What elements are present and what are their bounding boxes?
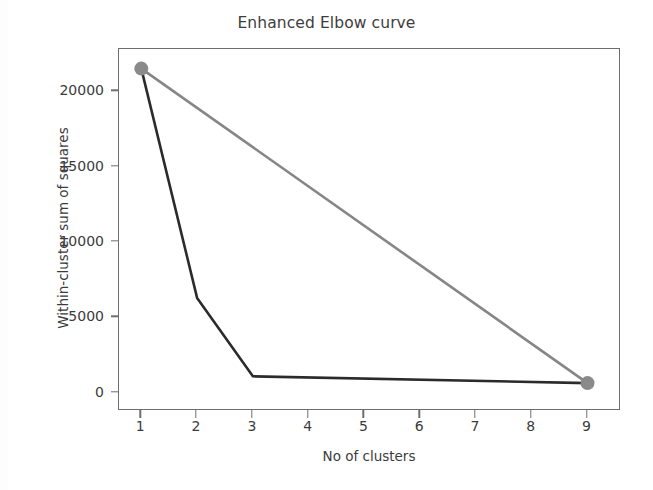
y-tick-label: 5000 bbox=[68, 308, 104, 324]
x-tick-mark bbox=[418, 410, 419, 418]
x-tick-mark bbox=[140, 410, 141, 418]
x-tick-mark bbox=[530, 410, 531, 418]
x-tick-mark bbox=[307, 410, 308, 418]
x-tick-mark bbox=[474, 410, 475, 418]
endpoint-marker bbox=[581, 376, 595, 390]
x-tick-label: 4 bbox=[303, 418, 312, 434]
x-tick-label: 9 bbox=[582, 418, 591, 434]
plot-area bbox=[118, 48, 620, 410]
plot-lines bbox=[119, 49, 621, 411]
endpoint-marker bbox=[134, 62, 148, 76]
x-tick-label: 2 bbox=[192, 418, 201, 434]
series-line bbox=[141, 69, 587, 383]
x-tick-label: 1 bbox=[136, 418, 145, 434]
x-tick-label: 8 bbox=[526, 418, 535, 434]
y-tick-label: 0 bbox=[95, 384, 104, 400]
x-tick-mark bbox=[195, 410, 196, 418]
x-tick-mark bbox=[363, 410, 364, 418]
x-tick-label: 7 bbox=[471, 418, 480, 434]
x-tick-mark bbox=[586, 410, 587, 418]
elbow-chart-figure: Enhanced Elbow curve 0500010000150002000… bbox=[0, 0, 653, 490]
x-tick-label: 5 bbox=[359, 418, 368, 434]
x-tick-mark bbox=[251, 410, 252, 418]
y-axis-tick-labels: 05000100001500020000 bbox=[0, 0, 104, 490]
x-axis-label: No of clusters bbox=[118, 448, 620, 464]
x-tick-label: 3 bbox=[247, 418, 256, 434]
x-tick-label: 6 bbox=[415, 418, 424, 434]
y-axis-label: Within-cluster sum of squares bbox=[55, 47, 71, 409]
